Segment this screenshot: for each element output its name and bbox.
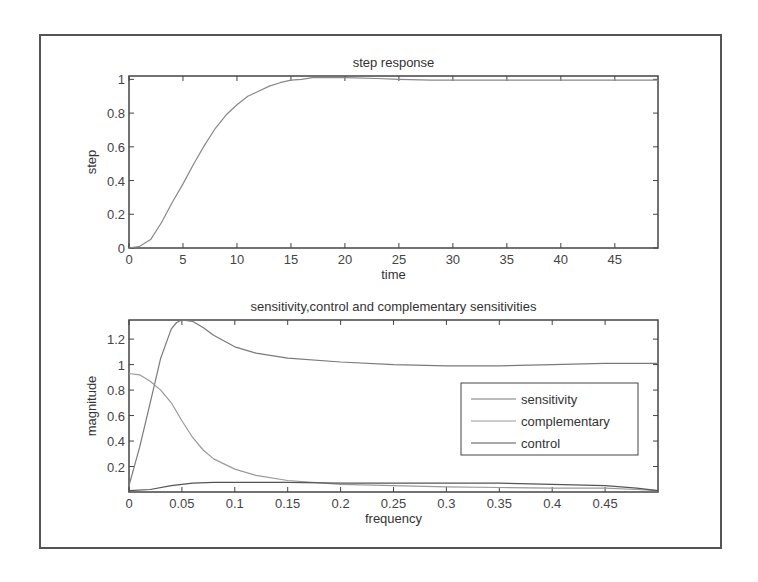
step-response-ylabel: step [84, 150, 99, 175]
x-tick-label: 0.15 [275, 496, 300, 511]
series-step [129, 78, 658, 248]
y-tick-label: 1 [118, 358, 125, 373]
sensitivities-ylabel: magnitude [84, 376, 99, 437]
sensitivities-xlabel: frequency [365, 511, 423, 526]
legend-item-complementary: complementary [521, 414, 610, 429]
x-tick-label: 0.3 [437, 496, 455, 511]
x-tick-label: 0.1 [226, 496, 244, 511]
x-tick-label: 0.05 [169, 496, 194, 511]
x-tick-label: 0.45 [592, 496, 617, 511]
y-tick-label: 0.2 [107, 460, 125, 475]
x-tick-label: 40 [554, 252, 568, 267]
figure-canvas: step response05101520253035404500.20.40.… [0, 0, 758, 582]
y-tick-label: 0.6 [107, 409, 125, 424]
y-tick-label: 0.2 [107, 207, 125, 222]
x-tick-label: 30 [446, 252, 460, 267]
x-tick-label: 0.2 [332, 496, 350, 511]
x-tick-label: 35 [500, 252, 514, 267]
y-tick-label: 0 [118, 241, 125, 256]
x-tick-label: 20 [338, 252, 352, 267]
x-tick-label: 5 [179, 252, 186, 267]
sensitivities-title: sensitivity,control and complementary se… [251, 299, 537, 314]
x-tick-label: 15 [284, 252, 298, 267]
x-tick-label: 0.4 [543, 496, 561, 511]
y-tick-label: 0.6 [107, 140, 125, 155]
y-tick-label: 1 [118, 72, 125, 87]
legend-item-control: control [521, 436, 560, 451]
x-tick-label: 0.25 [381, 496, 406, 511]
y-tick-label: 0.8 [107, 383, 125, 398]
step-response-axes [129, 76, 658, 248]
y-tick-label: 0.4 [107, 174, 125, 189]
step-response-xlabel: time [381, 267, 406, 282]
y-tick-label: 0.8 [107, 106, 125, 121]
step-response-title: step response [353, 55, 435, 70]
x-tick-label: 0.35 [487, 496, 512, 511]
x-tick-label: 45 [608, 252, 622, 267]
x-tick-label: 25 [392, 252, 406, 267]
x-tick-label: 10 [230, 252, 244, 267]
legend-item-sensitivity: sensitivity [521, 392, 578, 407]
x-tick-label: 0 [125, 496, 132, 511]
y-tick-label: 1.2 [107, 332, 125, 347]
y-tick-label: 0.4 [107, 434, 125, 449]
x-tick-label: 0 [125, 252, 132, 267]
